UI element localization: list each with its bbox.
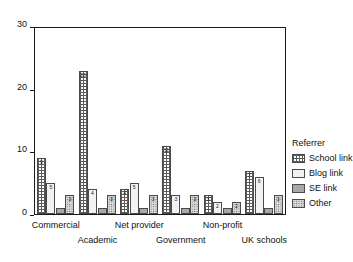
y-tick-label: 10 (17, 145, 27, 154)
bar-value-label: 6 (258, 179, 261, 184)
bar[interactable] (98, 208, 107, 214)
bar-value-label: 3 (110, 197, 113, 202)
bar-value-label: 3 (277, 197, 280, 202)
bar-chart: 0 10 20 30 95323434531133322763 Commerci… (0, 0, 353, 262)
bar[interactable]: 3 (171, 195, 180, 214)
bar[interactable]: 3 (190, 195, 199, 214)
bar-value-label: 5 (133, 185, 136, 190)
bar[interactable]: 3 (107, 195, 116, 214)
legend-swatch-other-icon (292, 199, 305, 208)
bar[interactable]: 23 (79, 71, 88, 214)
bar[interactable]: 4 (88, 189, 97, 214)
bar[interactable] (56, 208, 65, 214)
legend-title: Referrer (292, 138, 353, 148)
bar[interactable]: 3 (149, 195, 158, 214)
bar[interactable] (181, 208, 190, 214)
y-tick-label: 20 (17, 83, 27, 92)
bar-value-label: 11 (164, 148, 169, 153)
legend-item-school-link[interactable]: School link (292, 153, 353, 163)
bar-value-label: 9 (40, 160, 43, 165)
bar[interactable]: 4 (120, 189, 129, 214)
bar-value-label: 4 (91, 191, 94, 196)
bar[interactable]: 5 (130, 183, 139, 214)
bar[interactable]: 6 (255, 177, 264, 214)
legend-label: School link (309, 153, 353, 163)
bar-group: 1133 (162, 28, 200, 214)
bar-value-label: 3 (207, 197, 210, 202)
bar[interactable]: 3 (274, 195, 283, 214)
x-axis-label: Non-profit (203, 220, 243, 230)
bar-value-label: 7 (248, 173, 251, 178)
x-axis-labels: CommercialAcademicNet providerGovernment… (0, 215, 290, 260)
bar-value-label: 3 (68, 197, 71, 202)
legend-label: Other (309, 198, 332, 208)
bar[interactable]: 11 (162, 146, 171, 214)
bar-value-label: 23 (80, 73, 86, 78)
x-axis-label: Academic (78, 235, 118, 245)
bar-value-label: 3 (193, 197, 196, 202)
legend-item-se-link[interactable]: SE link (292, 183, 353, 193)
bar-group: 763 (245, 28, 283, 214)
x-axis-label: UK schools (241, 235, 287, 245)
bars-layer: 95323434531133322763 (35, 28, 285, 214)
bar[interactable]: 3 (65, 195, 74, 214)
bar[interactable]: 9 (37, 158, 46, 214)
bar[interactable] (264, 208, 273, 214)
bar-value-label: 3 (174, 197, 177, 202)
bar-group: 453 (120, 28, 158, 214)
bar-group: 2343 (79, 28, 117, 214)
x-axis-label: Government (156, 235, 206, 245)
x-axis-label: Net provider (115, 220, 164, 230)
legend-label: Blog link (309, 168, 343, 178)
bar[interactable] (223, 208, 232, 214)
legend-item-other[interactable]: Other (292, 198, 353, 208)
bar-value-label: 2 (216, 204, 219, 209)
bar[interactable]: 3 (204, 195, 213, 214)
legend: Referrer School link Blog link SE link O… (292, 138, 353, 213)
legend-label: SE link (309, 183, 337, 193)
legend-swatch-blog-link-icon (292, 169, 305, 178)
bar-group: 322 (204, 28, 242, 214)
bar-value-label: 4 (123, 191, 126, 196)
bar[interactable]: 2 (232, 202, 241, 214)
bar[interactable]: 5 (46, 183, 55, 214)
bar[interactable]: 2 (213, 202, 222, 214)
bar-value-label: 2 (235, 204, 238, 209)
bar-value-label: 5 (49, 185, 52, 190)
bar-value-label: 3 (152, 197, 155, 202)
legend-swatch-se-link-icon (292, 184, 305, 193)
bar[interactable]: 7 (245, 171, 254, 214)
y-tick-label: 30 (17, 20, 27, 29)
legend-item-blog-link[interactable]: Blog link (292, 168, 353, 178)
x-axis-label: Commercial (32, 220, 80, 230)
legend-swatch-school-link-icon (292, 154, 305, 163)
bar[interactable] (139, 208, 148, 214)
bar-group: 953 (37, 28, 75, 214)
